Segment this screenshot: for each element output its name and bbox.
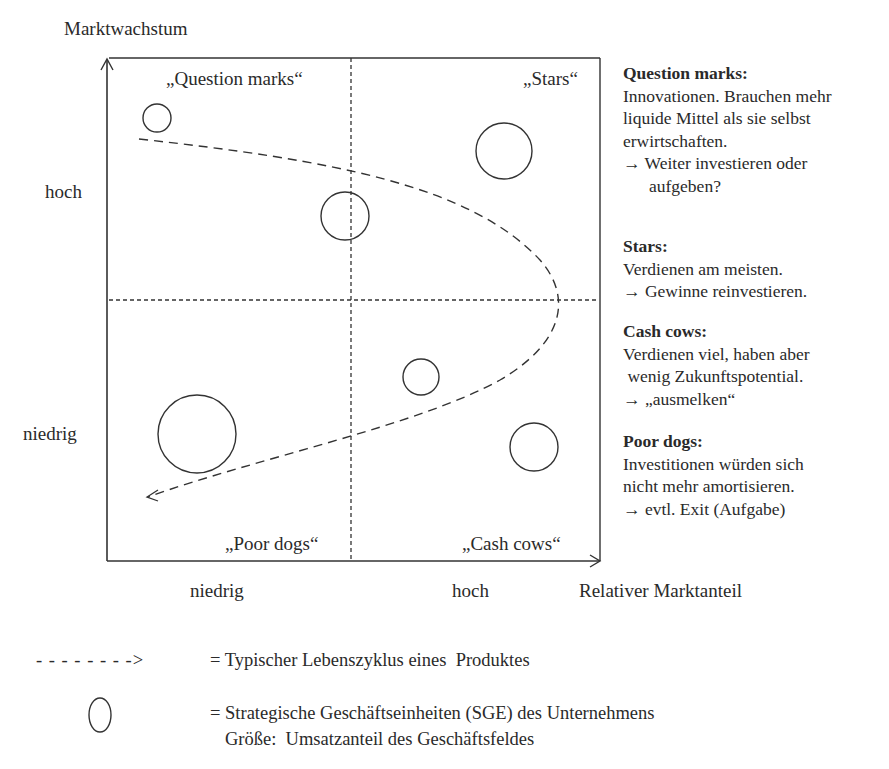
lifecycle-arrow-icon [147,490,158,501]
description-action: → „ausmelken“ [623,388,810,411]
quadrant-label-poor-dogs: „Poor dogs“ [225,533,318,555]
sge-circle [143,104,171,132]
description-line: nicht mehr amortisieren. [623,475,804,498]
quadrant-label-cash-cows: „Cash cows“ [462,533,561,555]
y-axis-title: Marktwachstum [64,18,187,40]
sge-circle [403,359,439,395]
description-line: Verdienen am meisten. [623,258,807,281]
description-cash-cows: Cash cows: Verdienen viel, haben aber we… [623,320,810,410]
quadrant-label-question-marks: „Question marks“ [166,68,303,90]
description-line: Innovationen. Brauchen mehr [623,85,831,108]
description-line: Verdienen viel, haben aber [623,343,810,366]
description-heading: Question marks: [623,62,831,85]
x-tick-low: niedrig [190,580,244,602]
x-tick-high: hoch [452,580,489,602]
description-heading: Poor dogs: [623,430,804,453]
description-heading: Stars: [623,235,807,258]
sge-circle [476,123,532,179]
quadrant-label-stars: „Stars“ [523,68,578,90]
legend-lifecycle-text: = Typischer Lebenszyklus eines Produktes [210,650,530,671]
sge-circle [158,395,236,473]
x-axis-title: Relativer Marktanteil [579,580,742,602]
description-line: wenig Zukunftspotential. [623,365,810,388]
description-stars: Stars: Verdienen am meisten. → Gewinne r… [623,235,807,303]
description-action: → evtl. Exit (Aufgabe) [623,498,804,521]
description-line: erwirtschaften. [623,130,831,153]
description-poor-dogs: Poor dogs: Investitionen würden sich nic… [623,430,804,520]
y-tick-low: niedrig [23,423,77,445]
legend-lifecycle-symbol: - - - - - - - -> [36,650,144,671]
description-action: → Weiter investieren oder [623,152,831,175]
description-line: liquide Mittel als sie selbst [623,107,831,130]
legend-sge-size-text: Größe: Umsatzanteil des Geschäftsfeldes [225,729,534,750]
description-action-cont: aufgeben? [623,175,831,198]
sge-circle [510,423,558,471]
y-tick-high: hoch [45,181,82,203]
description-line: Investitionen würden sich [623,453,804,476]
description-action: → Gewinne reinvestieren. [623,280,807,303]
legend-circle-icon [89,698,111,732]
description-heading: Cash cows: [623,320,810,343]
description-question-marks: Question marks: Innovationen. Brauchen m… [623,62,831,197]
sge-circle [321,192,369,240]
legend-sge-text: = Strategische Geschäftseinheiten (SGE) … [210,703,655,724]
